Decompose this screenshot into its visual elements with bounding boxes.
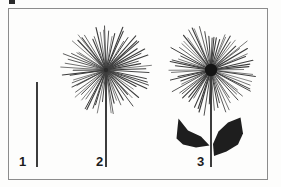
figure-root: 1 2 3 <box>0 0 281 187</box>
specimen-2-receptacle <box>104 68 108 72</box>
specimen-label-3: 3 <box>197 155 204 168</box>
specimen-3-leaf-right <box>213 118 243 157</box>
specimen-2-group <box>61 26 152 167</box>
specimen-label-2: 2 <box>96 155 103 168</box>
specimen-illustration-svg <box>0 0 281 187</box>
specimen-3-group <box>169 27 256 167</box>
specimen-3-leaf-left <box>177 119 210 148</box>
specimen-3-receptacle <box>205 64 217 76</box>
specimen-label-1: 1 <box>19 155 26 168</box>
